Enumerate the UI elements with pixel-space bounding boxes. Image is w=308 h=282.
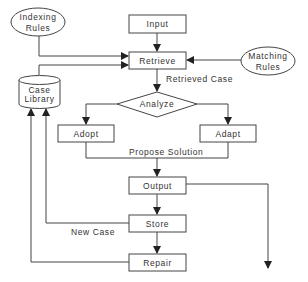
repair-label: Repair (143, 258, 172, 268)
matching-rules-label-1: Matching (248, 51, 287, 61)
retrieved-case-label: Retrieved Case (166, 74, 233, 84)
retrieve-label: Retrieve (139, 56, 175, 66)
cbr-flowchart: Indexing Rules Input Retrieve Matching R… (0, 0, 308, 282)
adapt-label: Adapt (215, 129, 240, 139)
node-repair: Repair (129, 254, 186, 271)
matching-rules-label-2: Rules (256, 62, 281, 72)
output-label: Output (143, 181, 172, 191)
node-indexing-rules: Indexing Rules (11, 8, 65, 36)
store-label: Store (146, 219, 169, 229)
edge-analyze-adopt (86, 104, 117, 124)
indexing-rules-label-1: Indexing (20, 12, 57, 22)
node-store: Store (129, 215, 186, 232)
adopt-label: Adopt (73, 129, 98, 139)
propose-solution-label: Propose Solution (129, 147, 203, 157)
node-input: Input (129, 15, 186, 33)
node-output: Output (129, 177, 186, 194)
new-case-label: New Case (71, 227, 115, 237)
edge-indexing-retrieve (39, 36, 128, 56)
analyze-label: Analyze (140, 99, 174, 109)
node-matching-rules: Matching Rules (241, 47, 295, 75)
input-label: Input (147, 19, 169, 29)
edge-analyze-adapt (197, 104, 228, 124)
node-analyze: Analyze (117, 92, 197, 117)
indexing-rules-label-2: Rules (26, 23, 51, 33)
node-retrieve: Retrieve (129, 52, 186, 69)
edge-output-external (186, 184, 268, 268)
edge-caselibrary-retrieve (39, 65, 128, 75)
node-adopt: Adopt (58, 125, 114, 142)
node-adapt: Adapt (200, 125, 256, 142)
node-case-library: Case Library (19, 76, 60, 109)
case-library-label-2: Library (24, 94, 54, 104)
